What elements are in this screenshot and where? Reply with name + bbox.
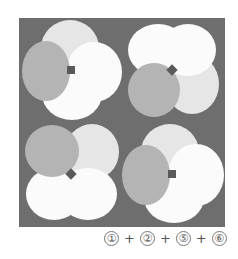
- plus-sign: +: [122, 231, 137, 246]
- figure-bottom-left: [25, 124, 119, 220]
- answer-item-4: ⑥: [212, 231, 227, 246]
- answer-item-1: ①: [104, 231, 119, 246]
- figure-top-right: [128, 24, 219, 117]
- puzzle-figures: [0, 0, 238, 259]
- plus-sign: +: [158, 231, 173, 246]
- plus-sign: +: [194, 231, 209, 246]
- square-marker-icon: [168, 170, 176, 178]
- figure-bottom-right: [122, 124, 224, 223]
- answer-item-2: ②: [140, 231, 155, 246]
- answer-formula: ① + ② + ⑤ + ⑥: [104, 227, 227, 249]
- square-marker-icon: [67, 66, 75, 74]
- figure-top-left: [22, 20, 122, 120]
- answer-item-3: ⑤: [176, 231, 191, 246]
